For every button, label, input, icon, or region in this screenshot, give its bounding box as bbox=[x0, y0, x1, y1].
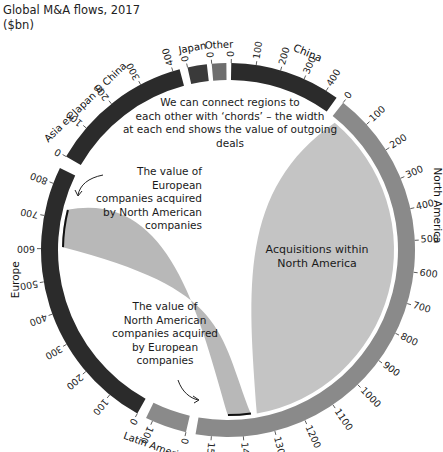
tick bbox=[40, 215, 44, 216]
tick bbox=[333, 405, 335, 408]
tick bbox=[139, 81, 141, 85]
region-label: North America bbox=[432, 167, 443, 243]
tick-label: 0 bbox=[225, 51, 236, 57]
tick-label: 600 bbox=[17, 244, 35, 255]
tick-label: 1100 bbox=[333, 406, 356, 432]
tick bbox=[172, 67, 173, 71]
tick-label: 1000 bbox=[359, 384, 384, 409]
tick bbox=[40, 282, 44, 283]
within-na-annotation: Acquisitions within North America bbox=[262, 243, 372, 270]
tick-label: 200 bbox=[65, 372, 86, 392]
tick bbox=[379, 361, 382, 363]
tick-label: 800 bbox=[399, 330, 420, 348]
tick bbox=[63, 344, 66, 346]
tick bbox=[256, 61, 257, 65]
tick-label: 0 bbox=[52, 147, 63, 160]
tick-label: 300 bbox=[43, 343, 64, 362]
tick-label: 300 bbox=[124, 61, 142, 82]
region-label: Europe bbox=[9, 261, 21, 298]
tick bbox=[386, 148, 389, 150]
tick bbox=[401, 177, 405, 179]
tick-label: 200 bbox=[387, 131, 408, 150]
tick bbox=[304, 76, 306, 80]
region-arc-japan[interactable] bbox=[188, 64, 209, 84]
tick bbox=[50, 182, 54, 183]
tick bbox=[135, 414, 137, 417]
tick bbox=[410, 208, 414, 209]
tick-label: 1200 bbox=[303, 423, 323, 450]
tick bbox=[407, 304, 411, 305]
tick-label: 100 bbox=[367, 103, 388, 123]
tick-label: 200 bbox=[276, 46, 292, 67]
tick bbox=[151, 421, 153, 425]
tick-label: 500 bbox=[19, 278, 39, 292]
tick-label: 1400 bbox=[239, 442, 252, 452]
tick-label: 0 bbox=[128, 417, 141, 428]
region-label: Japan bbox=[177, 40, 207, 56]
tick-label: 1500 bbox=[204, 442, 217, 452]
tick bbox=[305, 420, 307, 424]
tick bbox=[83, 372, 86, 375]
tick bbox=[275, 431, 276, 435]
tick bbox=[358, 385, 361, 388]
tick-label: 0 bbox=[342, 89, 354, 101]
tick bbox=[367, 122, 370, 125]
tick bbox=[63, 155, 66, 157]
tick bbox=[107, 395, 110, 398]
tick-label: 0 bbox=[179, 55, 191, 63]
tick-label: 600 bbox=[419, 267, 438, 280]
tick-label: 700 bbox=[412, 299, 433, 315]
tick bbox=[343, 99, 345, 102]
tick bbox=[185, 432, 186, 436]
intro-annotation: We can connect regions to each other wit… bbox=[120, 96, 340, 150]
tick bbox=[49, 314, 53, 315]
tick-label: 300 bbox=[404, 163, 425, 180]
tick-label: 900 bbox=[381, 359, 402, 379]
tick bbox=[281, 67, 282, 71]
tick-label: 400 bbox=[160, 47, 176, 68]
tick-label: 100 bbox=[91, 397, 111, 418]
tick-label: 400 bbox=[28, 312, 49, 329]
tick-label: 1300 bbox=[272, 435, 289, 452]
tick bbox=[83, 125, 86, 128]
tick-label: 100 bbox=[251, 40, 265, 60]
tick-label: 0 bbox=[179, 437, 191, 445]
tick bbox=[395, 333, 399, 335]
tick-label: 400 bbox=[324, 67, 343, 88]
tick-label: 700 bbox=[19, 207, 39, 221]
tick-label: 0 bbox=[204, 51, 215, 58]
europe-by-na-annotation: The value of European companies acquired… bbox=[92, 165, 202, 233]
tick bbox=[326, 87, 328, 90]
tick bbox=[187, 64, 188, 68]
region-label: Other bbox=[205, 39, 235, 51]
tick-label: 800 bbox=[28, 171, 49, 188]
na-by-europe-annotation: The value of North American companies ac… bbox=[110, 300, 220, 368]
tick bbox=[109, 101, 111, 104]
tick-label: 400 bbox=[415, 197, 435, 212]
region-arc-other[interactable] bbox=[212, 63, 227, 81]
chord-diagram: 0100200300400010020030040050060070080090… bbox=[0, 0, 443, 452]
